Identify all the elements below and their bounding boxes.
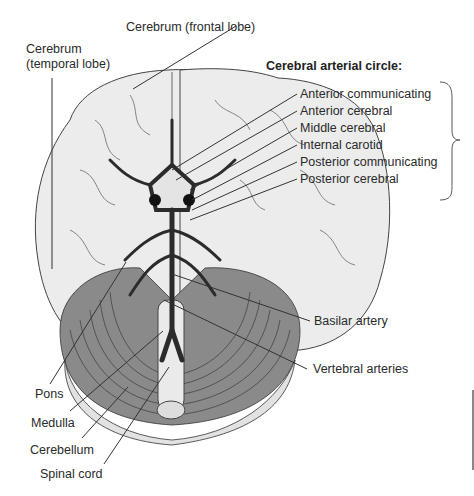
label-posterior-communicating: Posterior communicating xyxy=(300,155,438,170)
label-internal-carotid: Internal carotid xyxy=(300,138,383,153)
label-anterior-cerebral: Anterior cerebral xyxy=(300,104,392,119)
label-medulla: Medulla xyxy=(31,416,75,431)
label-pons: Pons xyxy=(35,387,64,402)
label-posterior-cerebral: Posterior cerebral xyxy=(300,172,399,187)
label-cerebellum: Cerebellum xyxy=(30,443,94,458)
label-anterior-communicating: Anterior communicating xyxy=(300,87,431,102)
arterial-circle-heading: Cerebral arterial circle: xyxy=(266,59,402,73)
label-temporal-lobe-1: Cerebrum xyxy=(26,42,82,57)
label-vertebral-arteries: Vertebral arteries xyxy=(313,362,408,377)
label-frontal-lobe: Cerebrum (frontal lobe) xyxy=(126,20,255,35)
label-temporal-lobe-2: (temporal lobe) xyxy=(26,57,110,72)
label-spinal-cord: Spinal cord xyxy=(40,467,103,482)
label-basilar-artery: Basilar artery xyxy=(314,314,388,329)
label-middle-cerebral: Middle cerebral xyxy=(300,121,385,136)
